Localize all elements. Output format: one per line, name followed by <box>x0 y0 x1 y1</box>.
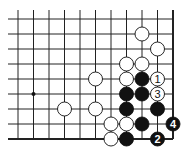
black-stone: 4 <box>166 117 180 131</box>
white-stone <box>89 102 103 116</box>
move-number: 1 <box>154 73 160 85</box>
stones: 1342 <box>58 27 181 146</box>
white-stone <box>104 117 118 131</box>
black-stone <box>120 102 134 116</box>
black-stone <box>120 132 134 146</box>
black-stone <box>120 87 134 101</box>
black-stone <box>151 102 165 116</box>
white-stone <box>120 72 134 86</box>
white-stone <box>135 57 149 71</box>
white-stone <box>151 42 165 56</box>
black-stone <box>135 117 149 131</box>
white-stone <box>89 72 103 86</box>
white-stone <box>58 102 72 116</box>
move-number: 3 <box>154 88 160 100</box>
white-stone <box>120 117 134 131</box>
move-number: 2 <box>154 133 160 145</box>
black-stone <box>135 72 149 86</box>
white-stone <box>135 27 149 41</box>
white-stone: 1 <box>151 72 165 86</box>
star-points <box>32 92 36 96</box>
move-number: 4 <box>170 118 177 130</box>
white-stone <box>104 132 118 146</box>
hoshi-point <box>32 92 36 96</box>
white-stone <box>120 57 134 71</box>
go-board-diagram: 1342 <box>0 0 187 155</box>
white-stone: 3 <box>151 87 165 101</box>
black-stone <box>135 87 149 101</box>
black-stone: 2 <box>151 132 165 146</box>
